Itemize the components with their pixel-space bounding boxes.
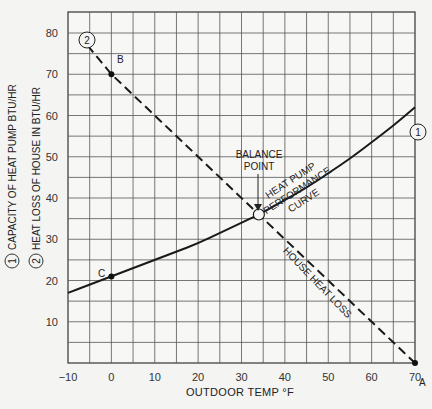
x-tick-label: 0: [108, 371, 114, 383]
y-tick-label: 20: [46, 275, 58, 287]
y-tick-label: 30: [46, 233, 58, 245]
point-b-marker: [108, 71, 114, 77]
y-tick-label: 40: [46, 192, 58, 204]
y-tick-label: 10: [46, 316, 58, 328]
x-axis-title: OUTDOOR TEMP °F: [186, 386, 294, 398]
y-axis-title-2: 2 HEAT LOSS OF HOUSE IN BTU/HR: [29, 87, 43, 268]
x-tick-label: 50: [322, 371, 334, 383]
svg-text:2: 2: [84, 35, 90, 46]
x-tick-label: 40: [279, 371, 291, 383]
x-tick-label: 10: [149, 371, 161, 383]
svg-text:2: 2: [31, 258, 42, 264]
x-tick-label: −10: [59, 371, 78, 383]
x-tick-label: 20: [192, 371, 204, 383]
y-tick-label: 60: [46, 110, 58, 122]
point-c-label: C: [98, 268, 105, 279]
svg-text:1: 1: [7, 258, 18, 264]
svg-text:CAPACITY OF HEAT PUMP BTU/HR: CAPACITY OF HEAT PUMP BTU/HR: [7, 84, 18, 250]
svg-text:HEAT LOSS OF HOUSE IN BTU/HR: HEAT LOSS OF HOUSE IN BTU/HR: [31, 87, 42, 250]
marker-1-circle: 1: [410, 124, 426, 140]
balance-label-line2: POINT: [244, 161, 275, 172]
y-axis-title-1: 1 CAPACITY OF HEAT PUMP BTU/HR: [5, 84, 19, 268]
svg-text:1: 1: [415, 127, 421, 138]
point-b-label: B: [117, 54, 124, 65]
y-tick-label: 70: [46, 68, 58, 80]
heat-pump-balance-chart: −100102030405060701020304050607080 BALAN…: [0, 0, 432, 409]
x-tick-label: 60: [366, 371, 378, 383]
point-c-marker: [108, 273, 114, 279]
point-a-label: A: [419, 377, 426, 388]
balance-label-line1: BALANCE: [236, 149, 283, 160]
y-tick-label: 80: [46, 27, 58, 39]
y-tick-label: 50: [46, 151, 58, 163]
marker-2-circle: 2: [79, 32, 95, 48]
point-a-marker: [412, 360, 418, 366]
x-tick-label: 30: [235, 371, 247, 383]
